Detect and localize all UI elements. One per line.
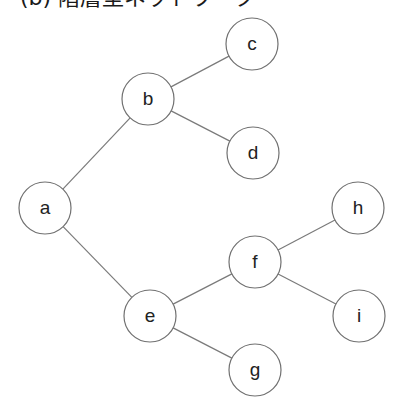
edge-a-e	[63, 227, 132, 298]
node-a: a	[19, 182, 71, 234]
node-label: c	[247, 33, 257, 54]
node-d: d	[227, 127, 279, 179]
node-label: d	[248, 142, 259, 163]
edge-a-b	[63, 118, 130, 189]
node-label: h	[353, 197, 364, 218]
node-label: f	[252, 251, 258, 272]
node-label: i	[357, 305, 361, 326]
edge-e-f	[173, 274, 232, 304]
nodes-layer: abcdefghi	[19, 18, 385, 396]
node-g: g	[229, 344, 281, 396]
edges-layer	[63, 56, 336, 358]
edge-b-d	[171, 111, 230, 141]
edge-e-g	[173, 328, 232, 358]
node-h: h	[332, 182, 384, 234]
node-e: e	[124, 290, 176, 342]
node-label: a	[40, 197, 51, 218]
node-label: b	[143, 88, 154, 109]
node-c: c	[226, 18, 278, 70]
node-label: e	[145, 305, 156, 326]
edge-b-c	[171, 56, 229, 87]
node-b: b	[122, 73, 174, 125]
node-i: i	[333, 290, 385, 342]
node-label: g	[250, 359, 261, 380]
node-f: f	[229, 236, 281, 288]
edge-f-i	[278, 274, 336, 304]
tree-diagram: abcdefghi	[0, 0, 405, 411]
edge-f-h	[278, 220, 335, 250]
